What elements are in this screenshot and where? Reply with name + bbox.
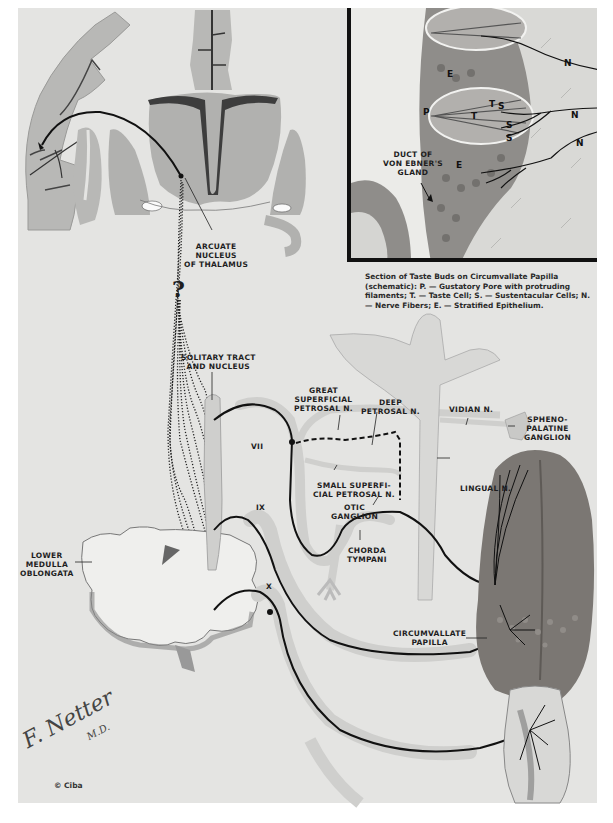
inset-label-s1: S [498, 101, 504, 111]
solitary-tract [204, 372, 222, 570]
inset-label-n1: N [564, 58, 572, 68]
brain-section [26, 10, 306, 252]
label-ix: IX [256, 503, 265, 512]
inset-label-t1: T [489, 99, 495, 109]
taste-bud-histology [351, 8, 597, 262]
inset-caption: Section of Taste Buds on Circumvallate P… [365, 272, 597, 310]
label-arcuate-nucleus: ARCUATE NUCLEUS OF THALAMUS [184, 242, 248, 269]
question-mark: ? [172, 278, 185, 300]
copyright: © Ciba [54, 781, 83, 790]
inset-label-s2: S [506, 120, 512, 130]
label-sphenopalatine: SPHENO- PALATINE GANGLION [524, 415, 571, 442]
label-vidian: VIDIAN N. [449, 405, 493, 414]
label-chorda-tympani: CHORDA TYMPANI [347, 546, 387, 564]
larynx [504, 686, 570, 803]
lower-medulla [82, 527, 258, 672]
label-lingual: LINGUAL N. [460, 484, 511, 493]
label-vii: VII [251, 442, 263, 451]
inset-label-n2: N [571, 110, 579, 120]
inset-label-e-upper: E [447, 69, 453, 79]
label-great-superficial-petrosal: GREAT SUPERFICIAL PETROSAL N. [294, 386, 353, 413]
inset-label-n3: N [576, 138, 584, 148]
label-otic-ganglion: OTIC GANGLION [331, 503, 378, 521]
taste-bud-inset: P E E T T S S S N N N DUCT OF VON EBNER'… [347, 8, 597, 262]
label-solitary-tract: SOLITARY TRACT AND NUCLEUS [181, 353, 256, 371]
label-lower-medulla: LOWER MEDULLA OBLONGATA [20, 551, 74, 578]
duct-label: DUCT OF VON EBNER'S GLAND [383, 150, 443, 177]
inset-label-p: P [423, 107, 430, 117]
label-small-superficial-petrosal: SMALL SUPERFI- CIAL PETROSAL N. [313, 481, 395, 499]
label-deep-petrosal: DEEP PETROSAL N. [361, 398, 420, 416]
label-circumvallate-papilla: CIRCUMVALLATE PAPILLA [393, 629, 466, 647]
label-x: X [266, 582, 272, 591]
inset-label-t2: T [471, 111, 477, 121]
inset-label-e-lower: E [456, 160, 462, 170]
inset-label-s3: S [506, 133, 512, 143]
